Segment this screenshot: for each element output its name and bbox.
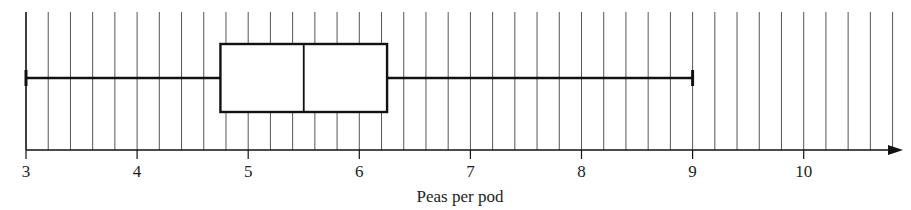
x-axis-title: Peas per pod bbox=[417, 187, 504, 206]
arrow-icon bbox=[888, 145, 903, 155]
tick-label: 9 bbox=[688, 162, 697, 181]
box-and-whisker bbox=[26, 44, 693, 112]
x-axis-ticks: 345678910 bbox=[22, 150, 812, 181]
tick-label: 10 bbox=[795, 162, 812, 181]
tick-label: 5 bbox=[244, 162, 253, 181]
tick-label: 8 bbox=[577, 162, 586, 181]
grid-lines bbox=[26, 12, 893, 150]
x-axis bbox=[26, 145, 903, 155]
tick-label: 7 bbox=[466, 162, 475, 181]
box-plot-chart: 345678910 Peas per pod bbox=[0, 0, 911, 210]
tick-label: 3 bbox=[22, 162, 31, 181]
tick-label: 4 bbox=[133, 162, 142, 181]
tick-label: 6 bbox=[355, 162, 364, 181]
